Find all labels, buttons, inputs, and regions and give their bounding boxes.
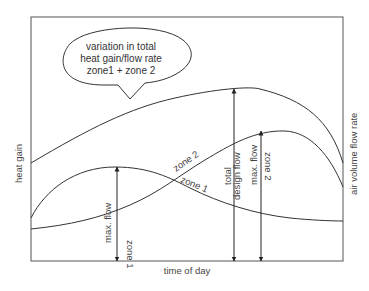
total-design-flow-line-2: design flow <box>231 152 242 200</box>
max-flow-zone-1-line-1: max. flow <box>102 203 113 243</box>
zone-2-label: zone 2 <box>171 148 201 173</box>
y-axis-left-label: heat gain <box>13 144 24 183</box>
x-axis-label: time of day <box>164 265 211 276</box>
y-axis-right-label: air volume flow rate <box>348 113 359 195</box>
max-flow-zone-2-line-2: zone 2 <box>263 152 274 181</box>
total-curve <box>31 88 343 163</box>
callout-line-2: heat gain/flow rate <box>80 53 162 64</box>
callout-line-3: zone1 + zone 2 <box>87 65 156 76</box>
callout-line-1: variation in total <box>86 41 156 52</box>
heat-gain-diagram: variation in total heat gain/flow rate z… <box>0 0 369 291</box>
max-flow-zone-1-line-2: zone 1 <box>125 240 136 269</box>
max-flow-zone-2-line-1: max. flow <box>248 145 259 185</box>
zone-1-label: zone 1 <box>179 174 210 195</box>
